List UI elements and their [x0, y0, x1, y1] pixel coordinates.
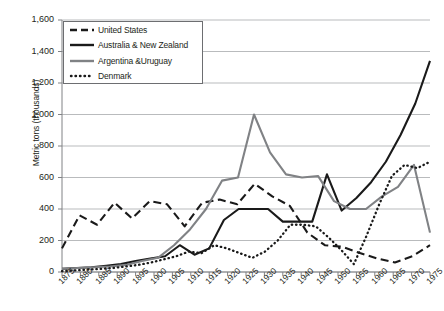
solid-gray-line-swatch: [69, 56, 95, 66]
y-tick-label: 800: [14, 140, 54, 150]
series-line-1: [62, 61, 430, 269]
dashed-line-swatch: [69, 25, 95, 35]
y-tick-label: 400: [14, 203, 54, 213]
y-tick-label: 1,000: [14, 109, 54, 119]
y-tick-label: 1,600: [14, 14, 54, 24]
solid-line-swatch: [69, 40, 95, 50]
series-line-2: [62, 115, 430, 269]
y-tick-label: 0: [14, 266, 54, 276]
legend-item-australia-new-zealand[interactable]: Australia & New Zealand: [64, 38, 202, 54]
y-tick-label: 1,200: [14, 77, 54, 87]
legend-label: Denmark: [98, 71, 131, 81]
legend-label: United States: [98, 25, 147, 35]
legend-item-argentina-uruguay[interactable]: Argentina &Uruguay: [64, 53, 202, 69]
series-line-0: [62, 184, 430, 263]
legend-item-denmark[interactable]: Denmark: [64, 69, 202, 85]
legend-label: Australia & New Zealand: [98, 40, 188, 50]
y-tick-label: 1,400: [14, 46, 54, 56]
chart-legend: United States Australia & New Zealand Ar…: [63, 21, 203, 84]
legend-label: Argentina &Uruguay: [98, 56, 172, 66]
legend-item-united-states[interactable]: United States: [64, 22, 202, 38]
y-tick-label: 600: [14, 172, 54, 182]
y-tick-label: 200: [14, 235, 54, 245]
dotted-line-swatch: [69, 71, 95, 81]
